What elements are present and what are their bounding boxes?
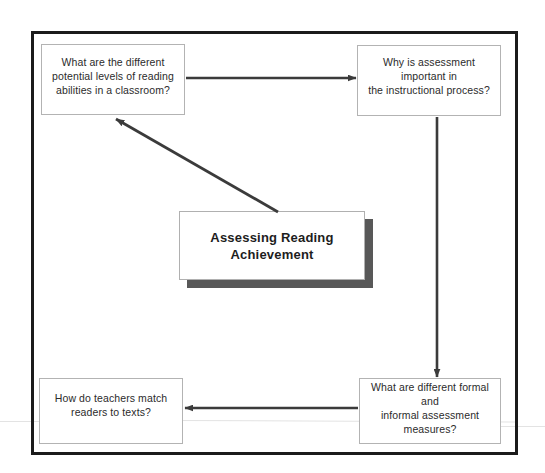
node-top-left[interactable]: What are the different potential levels … <box>41 44 185 115</box>
center-node[interactable]: Assessing Reading Achievement <box>179 211 365 280</box>
node-bottom-right[interactable]: What are different formal and informal a… <box>359 378 501 444</box>
node-bottom-right-label: What are different formal and informal a… <box>366 380 494 436</box>
node-top-right[interactable]: Why is assessment important in the instr… <box>357 45 501 116</box>
diagram-canvas: What are the different potential levels … <box>0 0 545 473</box>
node-top-left-label: What are the different potential levels … <box>52 55 174 97</box>
center-node-label: Assessing Reading Achievement <box>180 229 364 263</box>
node-bottom-left-label: How do teachers match readers to texts? <box>55 391 167 419</box>
node-top-right-label: Why is assessment important in the instr… <box>364 55 494 97</box>
node-bottom-left[interactable]: How do teachers match readers to texts? <box>39 378 183 444</box>
